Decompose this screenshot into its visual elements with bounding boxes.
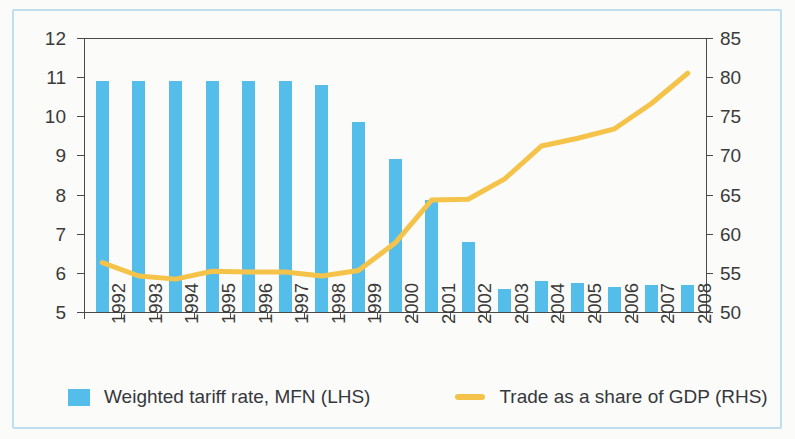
line-series-trade-share-gdp [84,38,706,312]
chart-legend: Weighted tariff rate, MFN (LHS) Trade as… [60,386,750,408]
y-axis-right-tick-mark [706,77,713,78]
x-axis-tick-mark [84,312,85,319]
y-axis-left-tick-mark [77,116,84,117]
y-axis-left-tick-label: 5 [26,303,66,322]
legend-item-trade-share-gdp: Trade as a share of GDP (RHS) [455,386,767,408]
y-axis-left-tick-mark [77,155,84,156]
y-axis-left-tick-mark [77,195,84,196]
y-axis-right-tick-label: 75 [720,107,760,126]
y-axis-left-tick-mark [77,77,84,78]
y-axis-right-tick-mark [706,195,713,196]
axis-bottom-spine [84,312,707,313]
y-axis-left-tick-mark [77,273,84,274]
y-axis-left-tick-mark [77,234,84,235]
y-axis-right-tick-label: 80 [720,68,760,87]
axis-right-spine [706,38,707,313]
y-axis-right-tick-label: 85 [720,29,760,48]
y-axis-left-tick-label: 7 [26,225,66,244]
y-axis-left-tick-label: 9 [26,146,66,165]
chart-figure: 56789101112 5055606570758085 19921993199… [0,0,795,439]
y-axis-left-tick-label: 8 [26,186,66,205]
y-axis-right-tick-label: 60 [720,225,760,244]
y-axis-right-tick-label: 70 [720,146,760,165]
y-axis-right-tick-mark [706,155,713,156]
y-axis-right-tick-label: 50 [720,303,760,322]
legend-bar-swatch-icon [68,389,90,406]
y-axis-left-tick-label: 11 [26,68,66,87]
y-axis-right-tick-label: 65 [720,186,760,205]
plot-area [84,38,706,312]
legend-label-weighted-tariff-rate: Weighted tariff rate, MFN (LHS) [104,386,370,408]
y-axis-right-tick-label: 55 [720,264,760,283]
y-axis-right-tick-mark [706,273,713,274]
y-axis-right-tick-mark [706,38,713,39]
y-axis-right-tick-mark [706,116,713,117]
legend-item-weighted-tariff-rate: Weighted tariff rate, MFN (LHS) [68,386,370,408]
y-axis-left-tick-mark [77,312,84,313]
y-axis-left-tick-label: 10 [26,107,66,126]
y-axis-left-tick-label: 6 [26,264,66,283]
y-axis-left-tick-label: 12 [26,29,66,48]
y-axis-left-tick-mark [77,38,84,39]
legend-line-swatch-icon [455,394,485,400]
legend-label-trade-share-gdp: Trade as a share of GDP (RHS) [499,386,767,408]
y-axis-right-tick-mark [706,234,713,235]
trade-share-polyline [102,73,687,279]
